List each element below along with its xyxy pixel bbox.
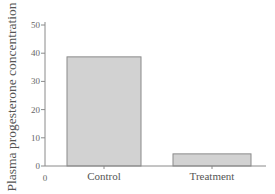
bar-treatment	[173, 154, 251, 166]
y-tick-label: 20	[31, 105, 41, 115]
x-origin-label: 0	[43, 173, 48, 183]
y-tick-label: 0	[36, 161, 41, 171]
bar-control	[67, 57, 141, 166]
x-category-label: Treatment	[190, 170, 235, 182]
y-tick-label: 50	[31, 20, 41, 30]
y-tick-label: 40	[31, 48, 41, 58]
bar-chart: ControlTreatment010203040500	[0, 0, 275, 194]
y-tick-label: 30	[31, 76, 41, 86]
y-tick-label: 10	[31, 133, 41, 143]
x-category-label: Control	[87, 170, 121, 182]
